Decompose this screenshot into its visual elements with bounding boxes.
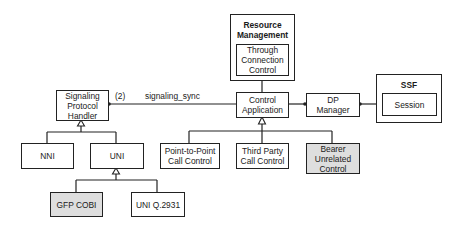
nni-box: NNI <box>21 143 74 169</box>
point-to-point-call-control-box: Point-to-Point Call Control <box>160 143 220 169</box>
uni-box: UNI <box>90 143 144 169</box>
control-application-box: Control Application <box>236 92 289 118</box>
architecture-diagram: Resource Management Through Connection C… <box>0 0 461 230</box>
bearer-unrelated-control-box: Bearer Unrelated Control <box>306 143 360 174</box>
uni-q2931-box: UNI Q.2931 <box>131 192 185 217</box>
signaling-sync-label: signaling_sync <box>145 91 200 101</box>
inheritance-triangle-icon <box>259 117 266 124</box>
session-box: Session <box>382 93 437 116</box>
multiplicity-label: (2) <box>115 91 125 101</box>
signaling-protocol-handler-box: Signaling Protocol Handler <box>56 90 109 121</box>
ssf-title: SSF <box>377 80 441 90</box>
dp-manager-box: DP Manager <box>306 93 360 117</box>
resource-management-title: Resource Management <box>231 20 294 40</box>
through-connection-control-box: Through Connection Control <box>236 44 289 76</box>
third-party-call-control-box: Third Party Call Control <box>236 143 289 169</box>
gfp-cobi-box: GFP COBI <box>50 192 103 217</box>
